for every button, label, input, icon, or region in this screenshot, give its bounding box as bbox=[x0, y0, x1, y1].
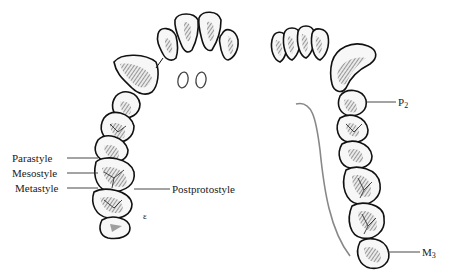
dental-diagram: Parastyle Mesostyle Metastyle Postprotos… bbox=[0, 0, 456, 277]
label-p2: P2 bbox=[398, 96, 408, 108]
right-arch bbox=[271, 26, 420, 268]
label-parastyle: Parastyle bbox=[12, 152, 52, 164]
label-postprotostyle: Postprotostyle bbox=[172, 183, 235, 195]
left-cheek-teeth bbox=[93, 92, 140, 239]
right-canine bbox=[331, 44, 376, 92]
foramen-left bbox=[176, 71, 189, 89]
label-m3-subscript: 3 bbox=[432, 251, 436, 260]
label-metastyle: Metastyle bbox=[15, 182, 58, 194]
foramen-right bbox=[195, 71, 207, 88]
left-canine bbox=[114, 55, 163, 94]
left-incisors bbox=[157, 12, 238, 60]
left-arch bbox=[67, 12, 238, 238]
label-m3-text: M bbox=[422, 246, 432, 258]
label-mesostyle: Mesostyle bbox=[12, 167, 57, 179]
label-m3: M3 bbox=[422, 246, 436, 258]
right-incisors bbox=[271, 26, 328, 62]
small-mark: ε bbox=[143, 210, 147, 222]
dental-arches-illustration bbox=[0, 0, 456, 277]
label-p2-subscript: 2 bbox=[404, 101, 408, 110]
right-cheek-teeth bbox=[337, 90, 389, 268]
